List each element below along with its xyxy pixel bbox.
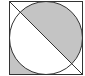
shaded-circle-half xyxy=(20,1,82,63)
shaded-bottom-left-corner xyxy=(10,38,47,75)
geometry-diagram xyxy=(0,0,85,76)
